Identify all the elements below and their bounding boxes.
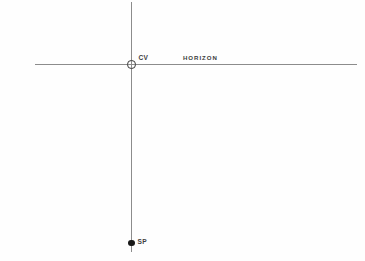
perspective-diagram: CV HORIZON SP xyxy=(0,0,365,261)
center-of-vision-marker-icon xyxy=(127,60,136,69)
horizon-line xyxy=(35,64,357,65)
station-point-marker-icon xyxy=(128,240,135,247)
center-of-vision-label: CV xyxy=(139,55,149,62)
horizon-label: HORIZON xyxy=(183,55,218,61)
vertical-axis-line xyxy=(131,2,132,252)
station-point-label: SP xyxy=(138,239,147,246)
